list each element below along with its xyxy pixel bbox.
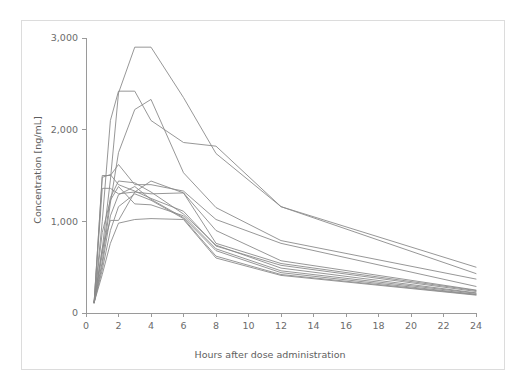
x-tick-label: 2	[115, 320, 121, 331]
y-tick-label: 2,000	[51, 124, 78, 135]
y-tick-labels-group: 01,0002,0003,000	[51, 32, 78, 318]
x-tick-label: 12	[275, 320, 287, 331]
series-line	[94, 194, 476, 303]
figure-container: 01,0002,0003,000 024681012141618202224 H…	[0, 0, 519, 385]
y-tick-label: 0	[72, 307, 78, 318]
x-tick-label: 0	[83, 320, 89, 331]
x-tick-label: 4	[148, 320, 154, 331]
x-tick-label: 24	[470, 320, 482, 331]
y-axis-title: Concentration [ng/mL]	[32, 116, 43, 223]
series-lines-group	[94, 47, 476, 303]
x-tick-label: 10	[242, 320, 254, 331]
x-tick-label: 18	[372, 320, 384, 331]
x-tick-label: 16	[340, 320, 352, 331]
y-tick-label: 1,000	[51, 216, 78, 227]
series-line	[94, 219, 476, 303]
x-tick-label: 14	[307, 320, 319, 331]
x-tick-labels-group: 024681012141618202224	[83, 320, 482, 331]
x-axis-title: Hours after dose administration	[194, 349, 345, 360]
x-tick-label: 6	[180, 320, 186, 331]
x-tick-label: 20	[405, 320, 417, 331]
y-tick-label: 3,000	[51, 32, 78, 43]
x-tick-label: 22	[437, 320, 449, 331]
line-chart: 01,0002,0003,000 024681012141618202224 H…	[0, 0, 519, 385]
x-tick-label: 8	[213, 320, 219, 331]
